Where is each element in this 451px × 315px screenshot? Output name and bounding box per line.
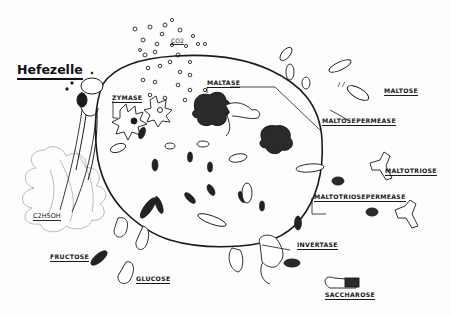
invertase-enzyme	[229, 235, 359, 288]
maltotriose-molecules	[296, 152, 418, 228]
maltotriose-label: MALTOTRIOSE	[385, 167, 437, 176]
hexose-molecules	[89, 196, 158, 284]
yeast-cell-diagram: Hefezelle CO2 C2H5OH ZYMASE MALTASE MALT…	[0, 0, 451, 315]
maltose-molecules	[278, 45, 371, 103]
ethanol-label: C2H5OH	[33, 212, 61, 221]
diagram-drawing	[0, 0, 451, 315]
co2-bubbles	[133, 18, 207, 107]
mascot-figure	[66, 72, 103, 180]
co2-label: CO2	[171, 37, 184, 44]
maltosepermease-label: MALTOSEPERMEASE	[322, 117, 396, 126]
maltotriosepermease-label: MALTOTRIOSEPERMEASE	[314, 193, 406, 202]
invertase-label: INVERTASE	[297, 241, 338, 250]
glucose-label: GLUCOSE	[136, 275, 170, 284]
diagram-title: Hefezelle	[17, 63, 83, 80]
maltase-label: MALTASE	[207, 79, 240, 88]
enzyme-blob-right	[260, 126, 293, 154]
fructose-label: FRUCTOSE	[50, 253, 89, 262]
sugar-molecules-inside	[109, 141, 252, 229]
zymase-label: ZYMASE	[112, 94, 142, 103]
maltose-label: MALTOSE	[384, 87, 418, 96]
saccharose-label: SACCHAROSE	[325, 291, 375, 300]
maltase-enzyme	[193, 92, 260, 136]
